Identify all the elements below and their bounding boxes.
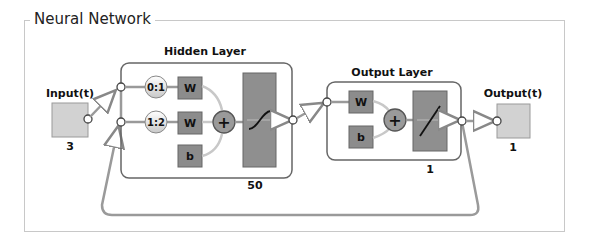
output-layer-output-port-icon xyxy=(458,117,466,125)
hidden-layer: Hidden Layer 50 0:1 1:2 W W b + xyxy=(117,45,292,192)
svg-text:+: + xyxy=(388,111,401,130)
svg-text:b: b xyxy=(357,131,365,144)
input-label: Input(t) xyxy=(46,87,94,100)
input-size: 3 xyxy=(66,140,74,153)
hidden-output-port-icon xyxy=(289,116,297,124)
svg-text:W: W xyxy=(184,117,196,130)
output-layer-size: 1 xyxy=(426,163,434,176)
hidden-layer-title: Hidden Layer xyxy=(164,45,247,58)
svg-text:+: + xyxy=(217,113,230,132)
output-port-icon xyxy=(493,117,501,125)
output-size: 1 xyxy=(509,141,517,154)
output-layer: Output Layer 1 W b + xyxy=(323,66,461,176)
output-layer-input-port-icon xyxy=(323,98,331,106)
hidden-layer-size: 50 xyxy=(247,179,263,192)
svg-text:1:2: 1:2 xyxy=(147,117,165,128)
output-layer-title: Output Layer xyxy=(351,66,433,79)
svg-text:0:1: 0:1 xyxy=(147,82,165,93)
hidden-feedback-port-icon xyxy=(117,118,125,126)
input-block: Input(t) 3 xyxy=(46,87,94,153)
hidden-input-port-icon xyxy=(117,83,125,91)
output-block: Output(t) 1 xyxy=(484,87,543,154)
hidden-to-output-connection xyxy=(297,104,322,118)
svg-text:b: b xyxy=(186,150,194,163)
svg-text:W: W xyxy=(355,96,367,109)
svg-text:W: W xyxy=(184,82,196,95)
network-diagram: Input(t) 3 Hidden Layer 50 0:1 1:2 W W b… xyxy=(0,0,589,247)
output-label: Output(t) xyxy=(484,87,543,100)
